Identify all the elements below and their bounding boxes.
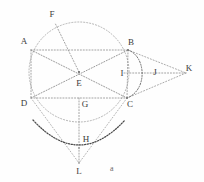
- figure-canvas: [0, 0, 204, 182]
- segment-DL: [31, 98, 79, 163]
- point-label-C: C: [127, 100, 133, 109]
- point-label-L: L: [76, 167, 82, 176]
- geometry-figure: A B C D E F G H I J K L a: [0, 0, 204, 182]
- point-label-J: J: [153, 68, 157, 77]
- segment-CK: [127, 73, 186, 98]
- point-label-B: B: [128, 38, 134, 47]
- point-label-D: D: [21, 99, 28, 108]
- segment-DB: [31, 50, 128, 98]
- point-label-G: G: [82, 100, 89, 109]
- point-label-I: I: [120, 69, 123, 78]
- vertex-dot-B: [127, 49, 129, 51]
- point-label-H: H: [83, 135, 90, 144]
- point-label-E: E: [76, 79, 82, 88]
- segment-EF: [55, 23, 79, 72]
- figure-caption: a: [110, 164, 114, 173]
- point-label-K: K: [186, 64, 193, 73]
- segment-BC: [127, 50, 128, 98]
- point-label-A: A: [21, 37, 28, 46]
- vertex-dot-L: [78, 162, 80, 164]
- vertex-dot-E: [78, 71, 80, 73]
- point-label-F: F: [49, 10, 54, 19]
- arc-B-J-C: [127, 50, 142, 98]
- vertex-dot-H: [78, 147, 80, 149]
